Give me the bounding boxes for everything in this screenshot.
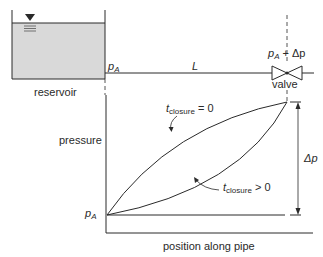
label-gradual-closure: tclosure > 0 <box>223 181 271 195</box>
reservoir: reservoir <box>12 10 105 98</box>
curve-instant-closure <box>107 102 287 215</box>
x-axis-label: position along pipe <box>163 240 255 252</box>
water-level-triangle-icon <box>25 14 35 21</box>
reservoir-label: reservoir <box>34 86 77 98</box>
delta-p-arrow-up-icon <box>296 102 301 109</box>
origin-pressure-label: pA <box>84 207 96 221</box>
inlet-pressure-label: pA <box>107 60 119 74</box>
pressure-plot: pressure position along pipe pA tclosure… <box>59 95 318 252</box>
valve-pressure-label: pA + Δp <box>267 47 305 61</box>
delta-p-arrow-down-icon <box>296 208 301 215</box>
label-instant-closure: tclosure = 0 <box>166 102 214 116</box>
delta-p-label: Δp <box>303 152 318 164</box>
curve-gradual-closure <box>107 102 287 215</box>
pipe-length-label: L <box>192 60 198 72</box>
valve: valve pA + Δp <box>267 47 305 90</box>
water-hammer-diagram: reservoir pA L valve pA + Δp pressure po… <box>0 0 323 257</box>
valve-label: valve <box>272 78 298 90</box>
valve-pivot <box>286 72 289 75</box>
arrowhead-instant-closure-icon <box>169 127 174 132</box>
y-axis-label: pressure <box>59 134 102 146</box>
